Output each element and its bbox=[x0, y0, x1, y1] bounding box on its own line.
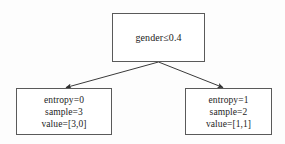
edge-root-to-left-leaf bbox=[66, 62, 159, 88]
tree-node-right-leaf: entropy=1 sample=2 value=[1,1] bbox=[185, 88, 272, 135]
tree-node-left-leaf: entropy=0 sample=3 value=[3,0] bbox=[16, 88, 112, 135]
decision-tree-diagram: gender≤0.4 entropy=0 sample=3 value=[3,0… bbox=[0, 0, 285, 144]
right-leaf-value-text: value=[1,1] bbox=[206, 118, 251, 130]
tree-node-root: gender≤0.4 bbox=[112, 13, 205, 62]
root-condition-text: gender≤0.4 bbox=[135, 32, 181, 44]
right-leaf-entropy-text: entropy=1 bbox=[208, 94, 248, 106]
left-leaf-value-text: value=[3,0] bbox=[41, 118, 86, 130]
left-leaf-sample-text: sample=3 bbox=[45, 106, 83, 118]
left-leaf-entropy-text: entropy=0 bbox=[44, 94, 84, 106]
edge-root-to-right-leaf bbox=[159, 62, 224, 88]
right-leaf-sample-text: sample=2 bbox=[210, 106, 248, 118]
